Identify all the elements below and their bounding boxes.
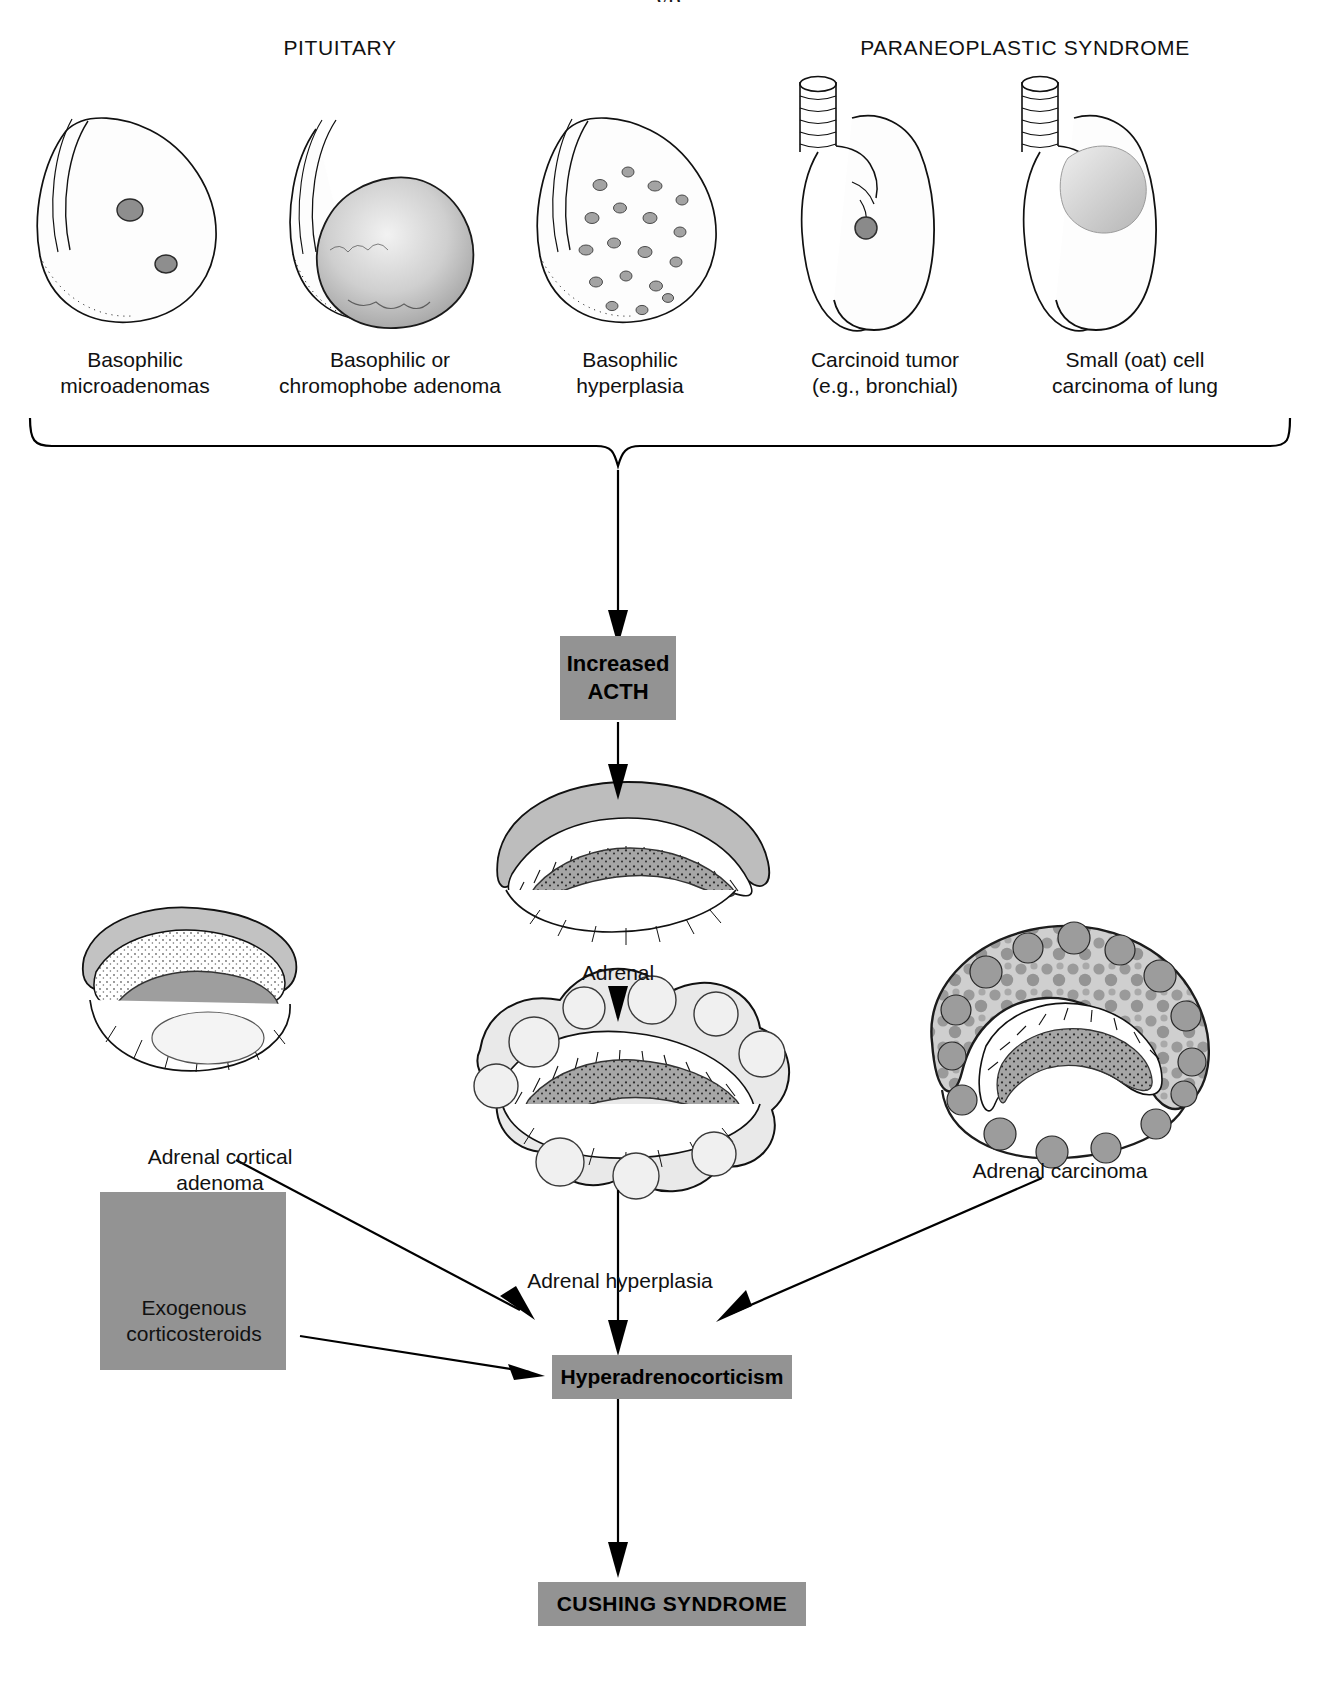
node-hyperadrenocorticism[interactable]: Hyperadrenocorticism — [552, 1355, 792, 1399]
node-cushing-syndrome[interactable]: CUSHING SYNDROME — [538, 1582, 806, 1626]
caption-chromophobe-adenoma-line2: chromophobe adenoma — [262, 373, 518, 399]
caption-basophilic-microadenomas-line2: microadenomas — [20, 373, 250, 399]
caption-adrenal-cortical-adenoma-line2: adenoma — [60, 1170, 380, 1196]
diagram-illustrations — [0, 0, 1336, 1706]
exogenous-corticosteroids-label-line2: corticosteroids — [96, 1321, 292, 1347]
section-header-paraneoplastic: PARANEOPLASTIC SYNDROME — [800, 36, 1250, 60]
caption-chromophobe-adenoma-line1: Basophilic or — [270, 347, 510, 373]
caption-small-oat-cell-line1: Small (oat) cell — [1010, 347, 1260, 373]
cut-off-title: yp — [0, 0, 1336, 2]
node-increased-acth-line1: Increased — [567, 650, 670, 678]
caption-basophilic-hyperplasia-line2: hyperplasia — [520, 373, 740, 399]
section-header-pituitary: PITUITARY — [180, 36, 500, 60]
node-increased-acth-line2: ACTH — [587, 678, 648, 706]
caption-adrenal: Adrenal — [518, 960, 718, 986]
caption-adrenal-carcinoma: Adrenal carcinoma — [900, 1158, 1220, 1184]
caption-carcinoid-tumor-line2: (e.g., bronchial) — [760, 373, 1010, 399]
caption-basophilic-hyperplasia-line1: Basophilic — [520, 347, 740, 373]
caption-adrenal-hyperplasia: Adrenal hyperplasia — [470, 1268, 770, 1294]
exogenous-corticosteroids-label-line1: Exogenous — [96, 1295, 292, 1321]
caption-carcinoid-tumor-line1: Carcinoid tumor — [760, 347, 1010, 373]
node-increased-acth[interactable]: Increased ACTH — [560, 636, 676, 720]
caption-adrenal-cortical-adenoma-line1: Adrenal cortical — [60, 1144, 380, 1170]
caption-small-oat-cell-line2: carcinoma of lung — [1010, 373, 1260, 399]
flow-arrowheads — [500, 610, 752, 1578]
caption-basophilic-microadenomas-line1: Basophilic — [20, 347, 250, 373]
